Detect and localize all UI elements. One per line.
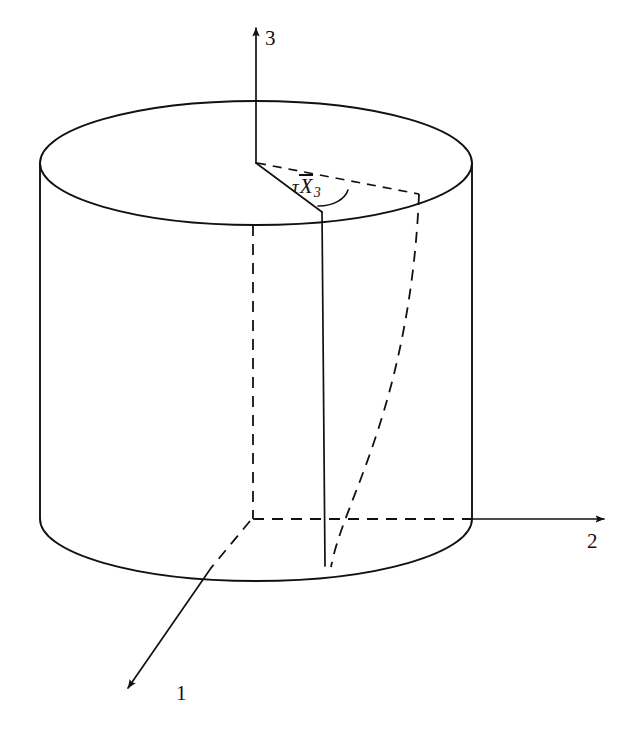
axis-3-label: 3	[265, 26, 276, 50]
tau-symbol: τ	[292, 176, 299, 197]
x-bar-symbol: X	[299, 176, 314, 197]
twist-angle-label: τX3	[292, 176, 321, 200]
twisted-generator-curve	[331, 194, 419, 567]
hidden-axis1-dashed-segment	[211, 521, 250, 568]
overbar-glyph	[299, 174, 313, 176]
twist-angle-arc	[318, 190, 348, 206]
axis-1-label: 1	[176, 681, 187, 705]
x-variable-letter: X	[300, 174, 313, 198]
figure-canvas: 3 2 1	[0, 0, 632, 742]
straight-generator-line	[322, 212, 325, 566]
cylinder-bottom-front-arc	[40, 519, 472, 581]
top-face-dashed-radius	[257, 163, 419, 194]
axis-2-label: 2	[587, 529, 598, 553]
subscript-3: 3	[314, 185, 321, 200]
axis-1-line	[128, 568, 211, 688]
torsion-cylinder-figure: 3 2 1 τX3	[0, 0, 632, 742]
